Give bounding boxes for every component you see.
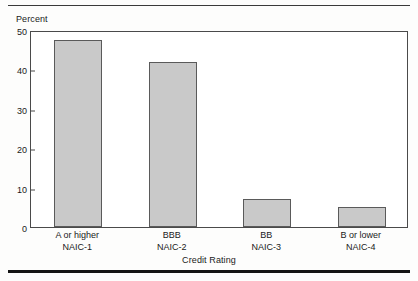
y-tick-label: 50: [17, 27, 27, 37]
y-tick-mark: [31, 71, 35, 72]
figure-container: Percent 01020304050 A or higherNAIC-1BBB…: [0, 0, 418, 281]
x-tick-label: A or higherNAIC-1: [55, 230, 99, 253]
x-tick-label-rating: B or lower: [340, 230, 381, 242]
y-axis-label: Percent: [16, 14, 48, 24]
y-tick-label: 40: [17, 66, 27, 76]
x-tick-label-naic: NAIC-3: [251, 242, 281, 254]
y-tick-mark: [31, 110, 35, 111]
x-tick-label-rating: A or higher: [55, 230, 99, 242]
x-axis-label: Credit Rating: [0, 255, 418, 265]
x-tick-label-rating: BBB: [157, 230, 187, 242]
bar: [149, 62, 197, 227]
bar: [338, 207, 386, 227]
x-tick-label: B or lowerNAIC-4: [340, 230, 381, 253]
plot-area: 01020304050: [30, 31, 408, 228]
bars-layer: [31, 32, 407, 227]
figure-top-rule: [8, 5, 410, 6]
y-tick-label: 20: [17, 145, 27, 155]
figure-bottom-rule: [8, 270, 410, 273]
y-tick-mark: [31, 150, 35, 151]
x-tick-label-naic: NAIC-1: [55, 242, 99, 254]
x-tick-label-rating: BB: [251, 230, 281, 242]
y-tick-label: 0: [22, 224, 27, 234]
x-tick-label-naic: NAIC-2: [157, 242, 187, 254]
x-tick-label-naic: NAIC-4: [340, 242, 381, 254]
bar: [54, 40, 102, 227]
y-tick-label: 10: [17, 185, 27, 195]
x-tick-label: BBNAIC-3: [251, 230, 281, 253]
y-tick-mark: [31, 189, 35, 190]
bar: [243, 199, 291, 227]
y-tick-label: 30: [17, 106, 27, 116]
x-tick-label: BBBNAIC-2: [157, 230, 187, 253]
